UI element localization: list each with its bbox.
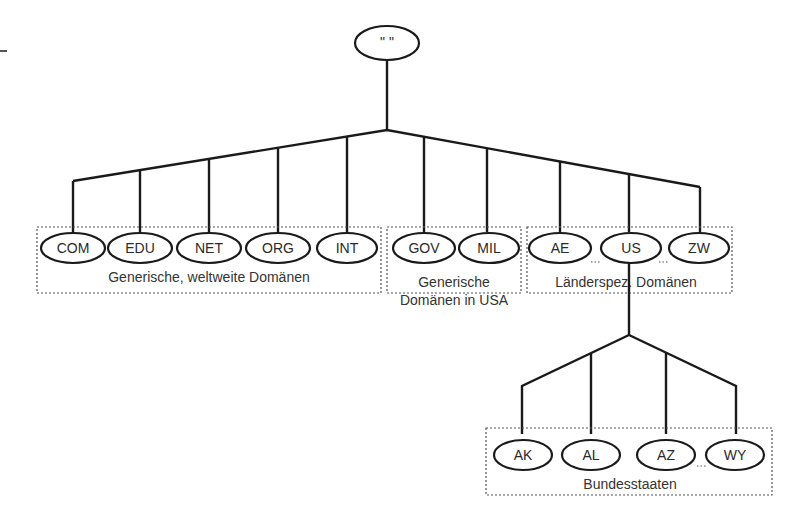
node-label: US (621, 240, 640, 256)
root-label: " " (380, 34, 394, 50)
group-label-generic-worldwide: Generische, weltweite Domänen (108, 269, 310, 285)
node-mil: MIL (459, 233, 519, 263)
node-ak: AK (494, 440, 552, 470)
node-label: WY (724, 447, 747, 463)
node-label: ORG (262, 240, 294, 256)
dns-hierarchy-diagram: " " COM EDU NET ORG INT Generische, w (0, 0, 804, 526)
root-node: " " (355, 26, 419, 60)
node-us: US (601, 233, 661, 263)
node-label: ZW (688, 240, 711, 256)
node-label: AL (582, 447, 599, 463)
node-com: COM (41, 233, 105, 263)
group-label-states: Bundesstaaten (583, 476, 676, 492)
node-label: AZ (657, 447, 675, 463)
top-level-drop-edges (73, 136, 700, 232)
node-org: ORG (246, 233, 310, 263)
node-gov: GOV (393, 233, 455, 263)
us-branch-edge (522, 335, 736, 434)
node-net: NET (177, 233, 241, 263)
node-label: MIL (477, 240, 501, 256)
node-label: AK (514, 447, 533, 463)
node-al: AL (562, 440, 620, 470)
node-label: INT (336, 240, 359, 256)
node-label: GOV (408, 240, 440, 256)
node-az: AZ (637, 440, 695, 470)
node-label: EDU (125, 240, 155, 256)
node-ae: AE (529, 233, 591, 263)
node-zw: ZW (669, 233, 729, 263)
node-edu: EDU (108, 233, 172, 263)
node-wy: WY (706, 440, 764, 470)
top-level-branch-edge (73, 130, 700, 187)
group-label-country-domains: Länderspez. Domänen (555, 274, 697, 290)
node-label: NET (195, 240, 223, 256)
node-int: INT (317, 233, 377, 263)
node-label: COM (57, 240, 90, 256)
group-label-generic-usa-line1: Generische (418, 274, 490, 290)
group-label-generic-usa-line2: Domänen in USA (400, 292, 509, 308)
node-label: AE (551, 240, 570, 256)
